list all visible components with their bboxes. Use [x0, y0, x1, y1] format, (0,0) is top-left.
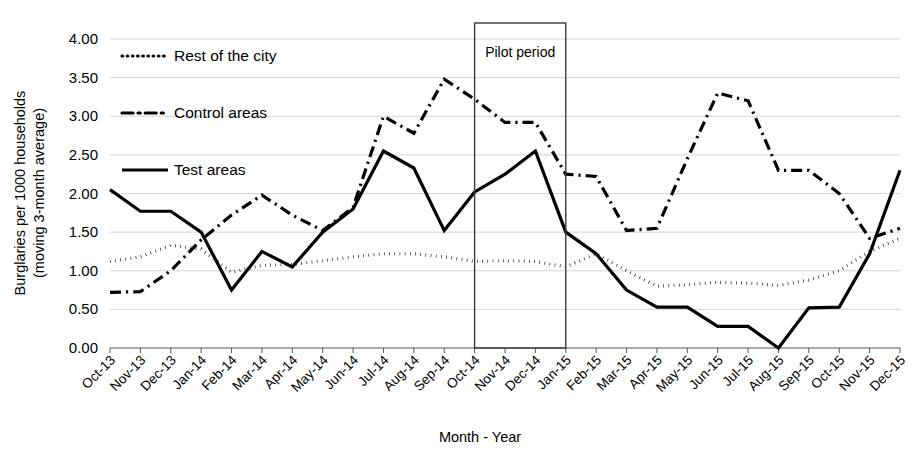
- x-axis-tick-label: Mar-14: [229, 352, 270, 393]
- x-axis-tick-labels: Oct-13Nov-13Dec-13Jan-14Feb-14Mar-14Apr-…: [79, 352, 908, 395]
- gridlines: [110, 39, 900, 348]
- y-axis-title-line2: (moving 3-month average): [31, 108, 47, 278]
- legend: Rest of the cityControl areasTest areas: [122, 47, 277, 178]
- y-axis-tick-label: 0.00: [69, 339, 98, 356]
- x-axis-title-label: Month - Year: [439, 429, 521, 445]
- series-line-rest-of-the-city: [110, 238, 900, 286]
- y-axis-tick-label: 1.00: [69, 262, 98, 279]
- x-axis-tick-label: Jun-15: [686, 353, 726, 393]
- y-axis-tick-label: 0.50: [69, 300, 98, 317]
- y-axis-tick-labels: 0.000.501.001.502.002.503.003.504.00: [69, 30, 98, 356]
- series-line-test-areas: [110, 151, 900, 348]
- burglaries-line-chart: 0.000.501.001.502.002.503.003.504.00 Oct…: [0, 0, 920, 457]
- legend-label-rest-of-the-city: Rest of the city: [174, 47, 277, 64]
- y-axis-tick-label: 3.50: [69, 69, 98, 86]
- x-axis-tick-label: Jun-14: [321, 352, 361, 392]
- y-axis-title: Burglaries per 1000 households (moving 3…: [12, 91, 47, 296]
- y-axis-tick-label: 2.50: [69, 146, 98, 163]
- y-axis-tick-label: 3.00: [69, 107, 98, 124]
- x-axis-tick-label: Mar-15: [594, 353, 635, 394]
- y-axis-tick-label: 1.50: [69, 223, 98, 240]
- pilot-period-label: Pilot period: [485, 44, 555, 60]
- y-axis-tick-label: 2.00: [69, 185, 98, 202]
- y-axis-tick-label: 4.00: [69, 30, 98, 47]
- x-axis-title: Month - Year: [439, 429, 521, 445]
- chart-page: 0.000.501.001.502.002.503.003.504.00 Oct…: [0, 0, 920, 457]
- y-axis-title-line1: Burglaries per 1000 households: [12, 91, 28, 296]
- legend-label-control-areas: Control areas: [174, 104, 267, 121]
- legend-label-test-areas: Test areas: [174, 161, 246, 178]
